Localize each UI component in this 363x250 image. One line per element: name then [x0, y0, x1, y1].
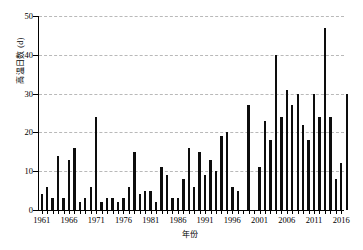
bar-1967 — [73, 148, 75, 210]
bar-2007 — [291, 105, 293, 210]
bar-1962 — [46, 187, 48, 210]
bar-2006 — [286, 90, 288, 210]
x-tick-1964 — [58, 210, 59, 214]
bar-2001 — [258, 167, 260, 210]
x-tick-1997 — [238, 210, 239, 214]
x-tick-1996 — [232, 210, 233, 214]
x-tick-1977 — [129, 210, 130, 214]
bar-2003 — [269, 140, 271, 210]
bar-1986 — [177, 198, 179, 210]
x-tick-2011 — [314, 210, 315, 214]
x-tick-1965 — [64, 210, 65, 214]
x-tick-2003 — [270, 210, 271, 214]
x-tick-1971 — [96, 210, 97, 214]
bar-2014 — [329, 117, 331, 210]
x-tick-1986 — [178, 210, 179, 214]
bar-1968 — [79, 202, 81, 210]
x-tick-1961 — [42, 210, 43, 214]
y-tick-label-10: 10 — [25, 167, 34, 176]
x-tick-2002 — [265, 210, 266, 214]
x-tick-1988 — [189, 210, 190, 214]
bar-2016 — [340, 163, 342, 210]
bar-1976 — [122, 198, 124, 210]
x-axis-title: 年份 — [38, 228, 343, 239]
x-tick-1989 — [194, 210, 195, 214]
y-tick-0 — [33, 210, 39, 211]
x-tick-1972 — [102, 210, 103, 214]
bar-2011 — [313, 94, 315, 210]
y-tick-10 — [33, 171, 39, 172]
y-tick-label-20: 20 — [25, 128, 34, 137]
x-tick-1969 — [85, 210, 86, 214]
bar-1991 — [204, 175, 206, 210]
y-tick-label-40: 40 — [25, 51, 34, 60]
x-tick-1979 — [140, 210, 141, 214]
x-tick-label-2006: 2006 — [278, 216, 295, 225]
x-tick-1991 — [205, 210, 206, 214]
x-tick-2005 — [281, 210, 282, 214]
gridline-50 — [39, 16, 344, 17]
x-tick-1990 — [200, 210, 201, 214]
x-tick-2015 — [336, 210, 337, 214]
y-tick-label-0: 0 — [29, 206, 33, 215]
x-tick-2001 — [260, 210, 261, 214]
bar-1996 — [231, 187, 233, 210]
bar-1990 — [198, 152, 200, 210]
bar-1971 — [95, 117, 97, 210]
bar-1999 — [247, 105, 249, 210]
x-tick-2014 — [330, 210, 331, 214]
y-tick-label-50: 50 — [25, 12, 34, 21]
x-tick-1984 — [167, 210, 168, 214]
x-tick-1970 — [91, 210, 92, 214]
plot-area: 01020304050 1961196619711976198119861991… — [38, 16, 344, 211]
x-tick-1993 — [216, 210, 217, 214]
x-tick-label-1976: 1976 — [115, 216, 132, 225]
y-tick-40 — [33, 55, 39, 56]
x-tick-1987 — [183, 210, 184, 214]
bar-1963 — [51, 198, 53, 210]
bar-1989 — [193, 187, 195, 210]
bar-2012 — [318, 117, 320, 210]
x-tick-1985 — [172, 210, 173, 214]
x-tick-1967 — [74, 210, 75, 214]
x-tick-label-2016: 2016 — [333, 216, 350, 225]
x-tick-1995 — [227, 210, 228, 214]
x-tick-1973 — [107, 210, 108, 214]
bar-1988 — [188, 148, 190, 210]
bar-chart: 高温日数 (d) 01020304050 1961196619711976198… — [0, 0, 363, 250]
y-tick-50 — [33, 16, 39, 17]
x-tick-2013 — [325, 210, 326, 214]
bar-1972 — [100, 202, 102, 210]
x-tick-1994 — [221, 210, 222, 214]
bar-2015 — [335, 179, 337, 210]
gridline-40 — [39, 55, 344, 56]
bar-1969 — [84, 198, 86, 210]
x-tick-1974 — [113, 210, 114, 214]
bar-2004 — [275, 55, 277, 210]
x-tick-label-1961: 1961 — [33, 216, 50, 225]
x-tick-1980 — [145, 210, 146, 214]
x-tick-2010 — [309, 210, 310, 214]
bar-1995 — [226, 132, 228, 210]
x-tick-label-1991: 1991 — [197, 216, 214, 225]
x-tick-1983 — [162, 210, 163, 214]
x-tick-label-1981: 1981 — [142, 216, 159, 225]
bar-1977 — [128, 187, 130, 210]
bar-2002 — [264, 121, 266, 210]
x-tick-1975 — [118, 210, 119, 214]
bar-1973 — [106, 198, 108, 210]
bar-1987 — [182, 179, 184, 210]
bar-1965 — [62, 198, 64, 210]
bar-undefined — [346, 94, 348, 210]
bar-2010 — [307, 140, 309, 210]
bar-2005 — [280, 117, 282, 210]
bar-2009 — [302, 125, 304, 210]
x-tick-label-2001: 2001 — [251, 216, 268, 225]
x-tick-label-2011: 2011 — [306, 216, 323, 225]
bar-1964 — [57, 156, 59, 210]
bar-1975 — [117, 202, 119, 210]
bar-1980 — [144, 191, 146, 210]
bar-1985 — [171, 198, 173, 210]
x-tick-2012 — [319, 210, 320, 214]
x-tick-1978 — [134, 210, 135, 214]
